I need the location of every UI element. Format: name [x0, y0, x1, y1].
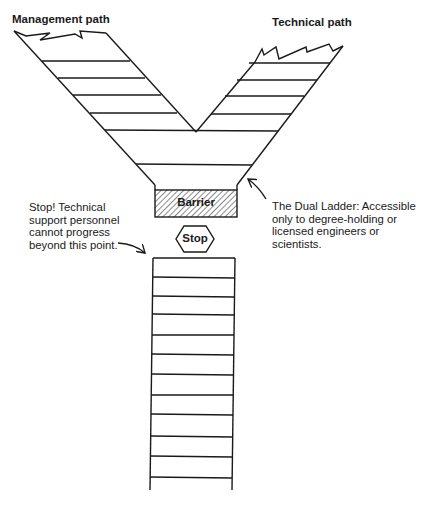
technical-ladder-torn-top: [255, 44, 343, 62]
management-ladder: [14, 31, 196, 185]
lower-rung: [152, 374, 233, 375]
lower-rung: [153, 277, 235, 278]
management-path-label: Management path: [12, 13, 110, 25]
stop-label: Stop: [176, 232, 214, 244]
technical-path-label: Technical path: [272, 16, 352, 28]
lower-rung: [151, 414, 233, 415]
lower-rung: [151, 436, 233, 437]
technical-ladder-outer-rail: [237, 46, 343, 185]
dual-ladder-diagram: [0, 0, 423, 506]
lower-rung: [151, 456, 232, 457]
merged-rung: [105, 130, 278, 131]
lower-rung: [153, 314, 234, 315]
dual-ladder-annotation: The Dual Ladder: Accessible only to degr…: [272, 200, 416, 250]
lower-technical-ladder: [150, 258, 235, 490]
barrier-label: Barrier: [155, 196, 237, 208]
lower-rung: [152, 354, 234, 355]
lower-rung: [153, 296, 234, 297]
management-ladder-outer-rail: [14, 31, 155, 185]
lower-ladder-right-rail: [232, 258, 235, 490]
stop-annotation: Stop! Technical support personnel cannot…: [29, 201, 119, 251]
technical-ladder: [196, 44, 343, 185]
technical-ladder-inner-rail: [196, 62, 255, 132]
management-ladder-inner-rail: [106, 33, 196, 132]
stop-note-arrow: [118, 243, 145, 253]
dual-ladder-arrow: [248, 179, 266, 199]
management-ladder-torn-top: [14, 31, 106, 40]
merged-rung: [136, 164, 252, 165]
lower-rung: [150, 477, 232, 478]
